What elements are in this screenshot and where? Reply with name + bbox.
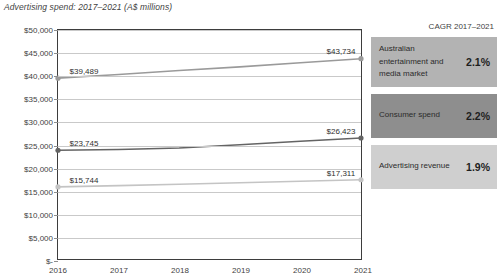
y-axis-tick [54,215,58,216]
x-axis-label: 2017 [110,266,128,275]
gridline [58,76,361,77]
y-axis-label: $50,000 [24,26,53,35]
gridline [58,146,361,147]
x-axis-label: 2020 [293,266,311,275]
cagr-panel: CAGR 2017–2021 Australian entertainment … [371,22,497,196]
data-point-marker [358,135,363,140]
series-lines [58,30,361,259]
data-point-label: $15,744 [70,176,99,185]
cagr-series-name: Consumer spend [379,109,440,122]
data-point-marker [55,184,60,189]
data-point-label: $39,489 [70,67,99,76]
chart-title: Advertising spend: 2017–2021 (A$ million… [4,2,172,12]
x-axis-label: 2018 [171,266,189,275]
y-axis-label: $5,000 [29,233,53,242]
y-axis-label: $30,000 [24,118,53,127]
x-axis-label: 2019 [232,266,250,275]
y-axis-tick [54,30,58,31]
data-point-label: $43,734 [327,47,356,56]
x-axis-label: 2016 [49,266,67,275]
chart-page: Advertising spend: 2017–2021 (A$ million… [0,0,501,279]
cagr-value: 1.9% [462,161,490,173]
y-axis-tick [54,53,58,54]
data-point-label: $17,311 [327,169,355,178]
cagr-series-name: Australian entertainment and media marke… [379,43,457,81]
cagr-row-list: Australian entertainment and media marke… [371,37,497,189]
y-axis-tick [54,169,58,170]
gridline [58,53,361,54]
y-axis-tick [54,238,58,239]
y-axis-label: $20,000 [24,164,53,173]
y-axis-label: $35,000 [24,95,53,104]
data-point-marker [55,148,60,153]
y-axis-tick [54,261,58,262]
y-axis-tick [54,192,58,193]
y-axis-tick [54,99,58,100]
y-axis-label: $10,000 [24,210,53,219]
cagr-row[interactable]: Consumer spend2.2% [371,94,497,138]
y-axis-label: $- [46,257,53,266]
gridline [58,169,361,170]
y-axis-label: $25,000 [24,141,53,150]
gridline [58,192,361,193]
y-axis-label: $40,000 [24,72,53,81]
y-axis-tick [54,146,58,147]
data-point-marker [358,56,363,61]
cagr-row[interactable]: Advertising revenue1.9% [371,145,497,189]
gridline [58,99,361,100]
cagr-value: 2.2% [462,110,490,122]
gridline [58,122,361,123]
series-line [58,180,361,187]
gridline [58,215,361,216]
plot-area: $-$5,000$10,000$15,000$20,000$25,000$30,… [57,29,362,260]
cagr-header: CAGR 2017–2021 [371,22,497,31]
cagr-row[interactable]: Australian entertainment and media marke… [371,37,497,87]
cagr-value: 2.1% [462,56,490,68]
gridline [58,238,361,239]
series-line [58,138,361,150]
cagr-series-name: Advertising revenue [379,160,450,173]
chart-area: $-$5,000$10,000$15,000$20,000$25,000$30,… [0,14,368,279]
y-axis-label: $45,000 [24,49,53,58]
y-axis-tick [54,76,58,77]
x-axis-label: 2021 [354,266,372,275]
gridline [58,30,361,31]
data-point-marker [358,177,363,182]
y-axis-tick [54,122,58,123]
y-axis-label: $15,000 [24,187,53,196]
data-point-label: $23,745 [70,139,99,148]
data-point-label: $26,423 [327,127,356,136]
